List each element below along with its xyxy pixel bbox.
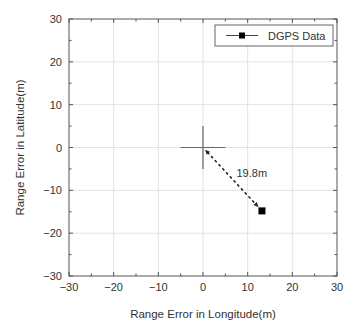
x-tick-label: 30 bbox=[331, 281, 343, 293]
x-tick-label: 0 bbox=[200, 281, 206, 293]
y-tick-label: 0 bbox=[56, 142, 62, 154]
x-tick-label: −10 bbox=[149, 281, 168, 293]
legend-label: DGPS Data bbox=[268, 30, 326, 42]
y-tick-label: −30 bbox=[43, 270, 62, 282]
y-tick-label: 10 bbox=[50, 99, 62, 111]
data-points bbox=[258, 207, 265, 214]
tick-labels: −30−20−100102030−30−20−100102030 bbox=[43, 13, 343, 293]
data-point-square-icon bbox=[258, 207, 265, 214]
x-tick-label: 20 bbox=[286, 281, 298, 293]
y-tick-label: −20 bbox=[43, 227, 62, 239]
y-axis-label: Range Error in Latitude(m) bbox=[14, 79, 26, 215]
scatter-plot: −30−20−100102030−30−20−100102030 DGPS Da… bbox=[0, 0, 357, 333]
x-tick-label: −20 bbox=[104, 281, 123, 293]
legend-square-marker-icon bbox=[239, 33, 245, 39]
reference-crosshair-icon bbox=[181, 126, 226, 169]
y-tick-label: 30 bbox=[50, 13, 62, 25]
arrowhead-end-icon bbox=[254, 202, 259, 207]
chart-container: −30−20−100102030−30−20−100102030 DGPS Da… bbox=[0, 0, 357, 333]
y-tick-label: −10 bbox=[43, 184, 62, 196]
legend: DGPS Data bbox=[215, 25, 333, 46]
y-tick-label: 20 bbox=[50, 56, 62, 68]
distance-label: 19.8m bbox=[237, 167, 268, 179]
x-tick-label: −30 bbox=[60, 281, 79, 293]
x-axis-label: Range Error in Longitude(m) bbox=[130, 308, 276, 320]
x-tick-label: 10 bbox=[242, 281, 254, 293]
